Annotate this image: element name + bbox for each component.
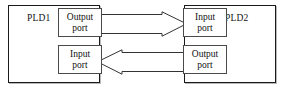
port-label-line2: port [197,23,212,34]
block-arrow-left-shape [98,50,188,74]
device-label-pld2: PLD2 [225,13,249,24]
port-box-pld1-output: Output port [58,8,102,37]
port-label-line1: Input [70,49,90,60]
port-box-pld1-input: Input port [58,45,102,74]
connection-arrow-output-to-input-reverse [96,49,188,75]
port-label-line1: Input [195,12,215,23]
port-label-line1: Output [192,49,218,60]
port-label-line2: port [197,60,212,71]
port-label-line2: port [72,60,87,71]
diagram-canvas: PLD1 PLD2 Output port Input port Input p… [0,0,284,92]
port-box-pld2-input: Input port [183,8,227,37]
connection-arrow-output-to-input [96,11,188,37]
port-label-line1: Output [67,12,93,23]
port-box-pld2-output: Output port [183,45,227,74]
port-label-line2: port [72,23,87,34]
block-arrow-right-shape [97,12,187,36]
device-label-pld1: PLD1 [27,13,51,24]
